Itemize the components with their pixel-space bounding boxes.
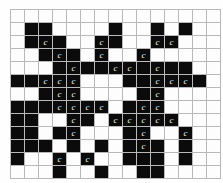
grid-cell-empty[interactable]	[67, 10, 81, 23]
grid-cell-empty[interactable]	[137, 23, 151, 36]
grid-cell-empty[interactable]	[39, 153, 53, 166]
grid-cell-empty[interactable]	[67, 36, 81, 49]
grid-cell-empty[interactable]	[207, 49, 221, 62]
grid-cell-empty[interactable]	[207, 166, 221, 179]
grid-cell-empty[interactable]	[123, 49, 137, 62]
grid-cell-filled[interactable]	[123, 140, 137, 153]
grid-cell-filled[interactable]	[109, 23, 123, 36]
grid-cell-marked[interactable]: c	[67, 75, 81, 88]
grid-cell-empty[interactable]	[193, 23, 207, 36]
grid-cell-marked[interactable]: c	[137, 114, 151, 127]
grid-cell-filled[interactable]	[25, 101, 39, 114]
grid-cell-empty[interactable]	[11, 88, 25, 101]
grid-cell-filled[interactable]	[123, 153, 137, 166]
grid-cell-filled[interactable]	[179, 23, 193, 36]
grid-cell-empty[interactable]	[39, 166, 53, 179]
grid-cell-empty[interactable]	[165, 101, 179, 114]
grid-cell-filled[interactable]	[67, 49, 81, 62]
grid-cell-filled[interactable]	[109, 36, 123, 49]
grid-cell-empty[interactable]	[81, 49, 95, 62]
grid-cell-empty[interactable]	[123, 88, 137, 101]
grid-cell-filled[interactable]	[25, 36, 39, 49]
grid-cell-empty[interactable]	[165, 88, 179, 101]
grid-cell-marked[interactable]: c	[109, 114, 123, 127]
grid-cell-marked[interactable]: c	[53, 88, 67, 101]
grid-cell-marked[interactable]: c	[123, 62, 137, 75]
grid-cell-empty[interactable]	[39, 114, 53, 127]
grid-cell-marked[interactable]: c	[67, 62, 81, 75]
grid-cell-filled[interactable]	[25, 114, 39, 127]
grid-cell-empty[interactable]	[11, 23, 25, 36]
grid-cell-empty[interactable]	[151, 49, 165, 62]
grid-cell-filled[interactable]	[39, 140, 53, 153]
grid-cell-filled[interactable]	[137, 166, 151, 179]
grid-cell-empty[interactable]	[193, 140, 207, 153]
grid-cell-empty[interactable]	[207, 153, 221, 166]
grid-cell-marked[interactable]: c	[165, 114, 179, 127]
grid-cell-marked[interactable]: c	[137, 140, 151, 153]
grid-cell-empty[interactable]	[179, 49, 193, 62]
grid-cell-empty[interactable]	[193, 166, 207, 179]
grid-cell-empty[interactable]	[137, 36, 151, 49]
grid-cell-empty[interactable]	[193, 62, 207, 75]
grid-cell-empty[interactable]	[207, 101, 221, 114]
grid-cell-empty[interactable]	[95, 153, 109, 166]
grid-cell-empty[interactable]	[67, 153, 81, 166]
grid-cell-filled[interactable]	[95, 62, 109, 75]
grid-cell-filled[interactable]	[123, 127, 137, 140]
grid-cell-marked[interactable]: c	[53, 101, 67, 114]
grid-cell-empty[interactable]	[81, 140, 95, 153]
grid-cell-filled[interactable]	[137, 88, 151, 101]
grid-cell-empty[interactable]	[25, 10, 39, 23]
grid-cell-empty[interactable]	[95, 23, 109, 36]
grid-cell-empty[interactable]	[207, 10, 221, 23]
grid-cell-empty[interactable]	[179, 166, 193, 179]
grid-cell-empty[interactable]	[81, 10, 95, 23]
grid-cell-empty[interactable]	[165, 140, 179, 153]
grid-cell-empty[interactable]	[25, 153, 39, 166]
grid-cell-empty[interactable]	[207, 36, 221, 49]
grid-cell-empty[interactable]	[179, 36, 193, 49]
grid-cell-empty[interactable]	[95, 114, 109, 127]
grid-cell-empty[interactable]	[165, 23, 179, 36]
grid-cell-filled[interactable]	[165, 62, 179, 75]
grid-cell-filled[interactable]	[123, 75, 137, 88]
grid-cell-marked[interactable]: c	[81, 101, 95, 114]
grid-cell-marked[interactable]: c	[53, 49, 67, 62]
grid-cell-marked[interactable]: c	[67, 114, 81, 127]
grid-cell-empty[interactable]	[81, 23, 95, 36]
grid-cell-empty[interactable]	[81, 36, 95, 49]
grid-cell-filled[interactable]	[39, 49, 53, 62]
grid-cell-marked[interactable]: c	[151, 36, 165, 49]
grid-cell-marked[interactable]: c	[165, 36, 179, 49]
grid-cell-empty[interactable]	[109, 101, 123, 114]
grid-cell-marked[interactable]: c	[53, 153, 67, 166]
grid-cell-empty[interactable]	[137, 10, 151, 23]
grid-cell-empty[interactable]	[179, 114, 193, 127]
grid-cell-marked[interactable]: c	[95, 101, 109, 114]
grid-cell-empty[interactable]	[109, 127, 123, 140]
grid-cell-empty[interactable]	[207, 75, 221, 88]
grid-cell-empty[interactable]	[53, 140, 67, 153]
grid-cell-empty[interactable]	[53, 114, 67, 127]
grid-cell-empty[interactable]	[165, 49, 179, 62]
grid-cell-empty[interactable]	[11, 49, 25, 62]
grid-cell-filled[interactable]	[25, 140, 39, 153]
grid-cell-filled[interactable]	[95, 166, 109, 179]
grid-cell-empty[interactable]	[193, 114, 207, 127]
grid-cell-empty[interactable]	[39, 10, 53, 23]
grid-cell-empty[interactable]	[11, 36, 25, 49]
grid-cell-empty[interactable]	[81, 75, 95, 88]
grid-cell-filled[interactable]	[39, 88, 53, 101]
grid-cell-filled[interactable]	[151, 23, 165, 36]
grid-cell-filled[interactable]	[81, 62, 95, 75]
grid-cell-marked[interactable]: c	[39, 36, 53, 49]
grid-cell-marked[interactable]: c	[67, 101, 81, 114]
grid-cell-empty[interactable]	[165, 127, 179, 140]
grid-cell-filled[interactable]	[39, 101, 53, 114]
grid-cell-empty[interactable]	[109, 88, 123, 101]
grid-cell-marked[interactable]: c	[67, 88, 81, 101]
grid-cell-empty[interactable]	[53, 23, 67, 36]
grid-cell-empty[interactable]	[67, 23, 81, 36]
grid-cell-marked[interactable]: c	[151, 75, 165, 88]
